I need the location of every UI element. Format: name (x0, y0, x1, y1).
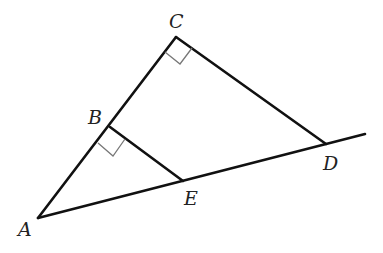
label-e: E (183, 187, 198, 209)
label-a: A (16, 218, 32, 240)
segment-ac (38, 37, 176, 218)
right-angle-marker-c (165, 48, 192, 64)
label-d: D (322, 152, 338, 174)
segment-be (110, 127, 183, 181)
right-angle-marker-b (98, 139, 125, 156)
segment-cd (176, 37, 326, 144)
label-b: B (87, 106, 102, 128)
geometry-diagram: A B C D E (0, 0, 383, 253)
ray-ad (38, 134, 365, 218)
label-c: C (169, 10, 184, 32)
